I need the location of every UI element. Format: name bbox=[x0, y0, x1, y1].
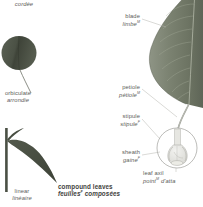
label-leaf-axil-fr-word: point bbox=[143, 178, 156, 184]
label-petiole-fr-word: pétiole bbox=[119, 92, 137, 98]
leader-sheath bbox=[142, 152, 160, 155]
label-blade: blade limbeM bbox=[92, 13, 140, 27]
label-orbiculate-en: orbiculate bbox=[0, 90, 36, 97]
label-cordee: cordée bbox=[2, 1, 46, 8]
label-stipule: stipule stipuleF bbox=[92, 113, 140, 127]
label-petiole-fr-gender: M bbox=[137, 91, 140, 95]
label-blade-fr-word: limbe bbox=[123, 21, 137, 27]
label-petiole: petiole pétioleM bbox=[92, 84, 140, 98]
label-petiole-fr: pétioleM bbox=[92, 91, 140, 99]
label-orbiculate: orbiculate arrondie bbox=[0, 90, 36, 103]
label-compound-en: compound leaves bbox=[58, 183, 150, 190]
label-sheath-fr-gender: F bbox=[138, 156, 140, 160]
label-blade-fr: limbeM bbox=[92, 20, 140, 28]
label-blade-fr-gender: M bbox=[137, 20, 140, 24]
label-sheath-en: sheath bbox=[92, 149, 140, 156]
label-stipule-en: stipule bbox=[92, 113, 140, 120]
label-compound-fr: feuillesF composées bbox=[58, 190, 150, 197]
linear-leaf-illustration bbox=[6, 128, 57, 192]
label-sheath-fr: gaineF bbox=[92, 156, 140, 164]
label-petiole-en: petiole bbox=[92, 84, 140, 91]
label-linear-fr: linéaire bbox=[2, 195, 42, 202]
orbiculate-leaf-illustration bbox=[2, 36, 37, 93]
label-compound-fr-word: feuilles bbox=[58, 190, 81, 197]
label-stipule-fr-gender: F bbox=[138, 120, 140, 124]
label-orbiculate-fr: arrondie bbox=[0, 97, 36, 104]
label-blade-en: blade bbox=[92, 13, 140, 20]
label-sheath: sheath gaineF bbox=[92, 149, 140, 163]
leader-stipule bbox=[142, 119, 160, 139]
label-cordee-fr: cordée bbox=[2, 1, 46, 8]
label-stipule-fr-word: stipule bbox=[120, 121, 137, 127]
label-leaf-axil-fr-gender: M bbox=[156, 177, 159, 181]
label-leaf-axil: leaf axil pointM d'atta bbox=[143, 170, 203, 184]
label-compound-fr-rest: composées bbox=[85, 190, 121, 197]
simple-leaf-illustration bbox=[149, 0, 203, 129]
leaf-diagram-plate: cordée orbiculate arrondie linear linéai… bbox=[0, 0, 203, 207]
leader-blade bbox=[142, 19, 166, 27]
label-linear-en: linear bbox=[2, 188, 42, 195]
label-leaf-axil-fr: pointM d'atta bbox=[143, 177, 203, 185]
label-leaf-axil-en: leaf axil bbox=[143, 170, 203, 177]
label-leaf-axil-fr-rest: d'atta bbox=[161, 178, 176, 184]
leaf-base-detail-magnifier bbox=[157, 128, 197, 168]
label-linear: linear linéaire bbox=[2, 188, 42, 201]
label-compound-fr-gender: F bbox=[81, 190, 83, 194]
label-compound-leaves: compound leaves feuillesF composées bbox=[58, 183, 150, 198]
label-sheath-fr-word: gaine bbox=[123, 157, 138, 163]
label-stipule-fr: stipuleF bbox=[92, 120, 140, 128]
